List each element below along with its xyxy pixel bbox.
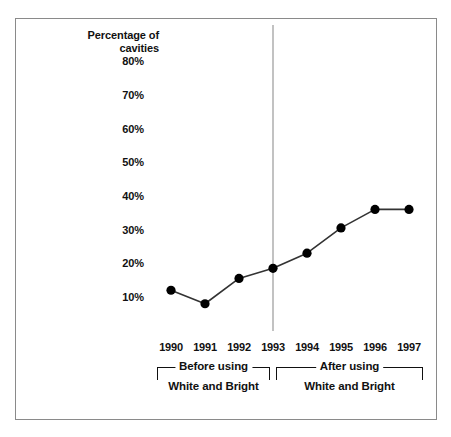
data-point-1993 xyxy=(268,264,277,273)
chart-figure: Percentage of cavities 80%70%60%50%40%30… xyxy=(15,18,437,420)
data-point-1996 xyxy=(370,205,379,214)
data-point-1997 xyxy=(404,205,413,214)
data-point-1992 xyxy=(234,274,243,283)
data-point-1990 xyxy=(166,286,175,295)
bracket-label-after-line-2: White and Bright xyxy=(304,380,394,392)
bracket-label-before-line-1: Before using xyxy=(175,360,252,372)
plot-area: 80%70%60%50%40%30%20%10% 199019911992199… xyxy=(16,19,438,421)
bracket-label-after-line-1: After using xyxy=(316,360,384,372)
series-markers xyxy=(166,205,413,309)
data-point-1994 xyxy=(302,249,311,258)
data-point-1995 xyxy=(336,223,345,232)
data-point-1991 xyxy=(200,299,209,308)
series-line xyxy=(171,209,409,303)
bracket-label-before-line-2: White and Bright xyxy=(168,380,258,392)
